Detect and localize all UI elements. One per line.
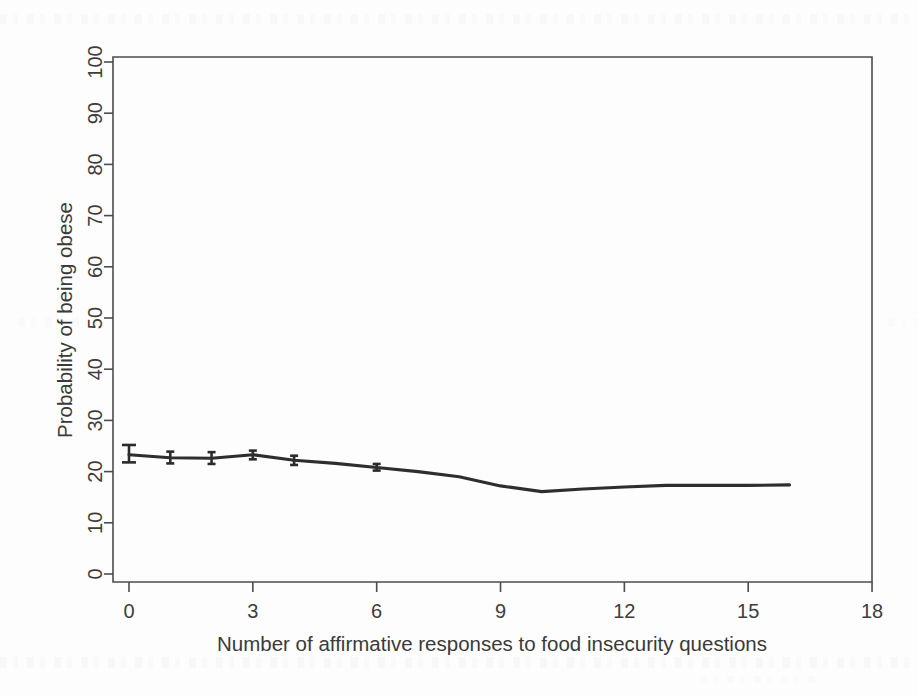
- y-tick-label: 80: [84, 153, 106, 175]
- x-tick-label: 9: [495, 600, 506, 622]
- y-axis-ticks: 0102030405060708090100: [84, 45, 113, 579]
- x-axis-title: Number of affirmative responses to food …: [217, 632, 767, 655]
- y-tick-label: 20: [84, 460, 106, 482]
- x-tick-label: 18: [861, 600, 883, 622]
- figure-canvas: 0102030405060708090100 0369121518 Probab…: [0, 0, 918, 695]
- y-tick-label: 90: [84, 102, 106, 124]
- x-axis-ticks: 0369121518: [123, 582, 883, 622]
- y-tick-label: 100: [84, 45, 106, 78]
- plot-frame: [113, 57, 872, 582]
- y-tick-label: 10: [84, 512, 106, 534]
- x-tick-label: 12: [613, 600, 635, 622]
- y-tick-label: 40: [84, 358, 106, 380]
- y-tick-label: 70: [84, 204, 106, 226]
- x-tick-label: 3: [247, 600, 258, 622]
- y-tick-label: 60: [84, 256, 106, 278]
- data-series-line: [129, 455, 790, 492]
- x-tick-label: 6: [371, 600, 382, 622]
- line-chart: 0102030405060708090100 0369121518 Probab…: [0, 0, 918, 695]
- y-axis-title: Probability of being obese: [53, 202, 76, 438]
- x-tick-label: 0: [123, 600, 134, 622]
- y-tick-label: 50: [84, 307, 106, 329]
- y-tick-label: 0: [84, 568, 106, 579]
- y-tick-label: 30: [84, 409, 106, 431]
- x-tick-label: 15: [737, 600, 759, 622]
